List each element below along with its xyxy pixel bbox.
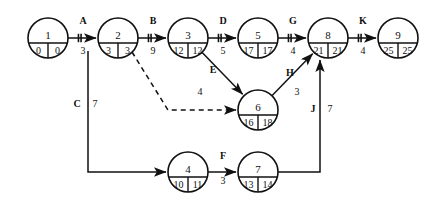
edge-label-A: A: [79, 15, 87, 26]
node-late-4: 11: [193, 179, 203, 190]
node-number-2: 2: [115, 29, 121, 41]
dummy-activity-edge: [132, 52, 236, 110]
node-early-8: 21: [314, 45, 324, 56]
node-7[interactable]: 71314: [238, 152, 278, 192]
node-late-2: 3: [125, 45, 130, 56]
node-number-5: 5: [255, 29, 261, 41]
node-early-9: 25: [384, 45, 394, 56]
edge-duration-C: 7: [93, 98, 98, 109]
edge-label-D: D: [219, 15, 226, 26]
edge-E: [202, 52, 243, 94]
edge-duration-F: 3: [221, 175, 226, 186]
edge-label-G: G: [289, 15, 297, 26]
node-early-6: 16: [244, 117, 254, 128]
edge-J: [278, 60, 320, 172]
network-diagram-canvas: 1002333121251717821219252561618410117131…: [0, 0, 442, 211]
edge-label-F: F: [220, 150, 226, 161]
node-early-5: 17: [244, 45, 254, 56]
edge-C: [88, 51, 166, 172]
node-number-3: 3: [185, 29, 191, 41]
node-late-6: 18: [263, 117, 273, 128]
edge-label-E: E: [210, 64, 217, 75]
node-9[interactable]: 92525: [378, 18, 418, 58]
node-early-3: 12: [174, 45, 184, 56]
node-late-1: 0: [55, 45, 60, 56]
node-number-9: 9: [395, 29, 401, 41]
network-diagram-svg: 1002333121251717821219252561618410117131…: [0, 0, 442, 211]
node-8[interactable]: 82121: [308, 18, 348, 58]
node-2[interactable]: 233: [98, 18, 138, 58]
edge-label-K: K: [359, 15, 367, 26]
edge-label-J: J: [311, 103, 316, 114]
node-late-5: 17: [263, 45, 273, 56]
node-late-9: 25: [403, 45, 413, 56]
node-4[interactable]: 41011: [168, 152, 208, 192]
node-number-4: 4: [185, 163, 191, 175]
node-5[interactable]: 51717: [238, 18, 278, 58]
node-early-1: 0: [36, 45, 41, 56]
node-number-8: 8: [325, 29, 331, 41]
node-early-2: 3: [106, 45, 111, 56]
node-late-7: 14: [263, 179, 273, 190]
edge-duration-A: 3: [81, 45, 86, 56]
edge-duration-H: 3: [295, 86, 300, 97]
edge-label-C: C: [73, 98, 80, 109]
node-late-8: 21: [333, 45, 343, 56]
edge-duration-G: 4: [291, 45, 296, 56]
node-6[interactable]: 61618: [238, 90, 278, 130]
edge-duration-E: 4: [198, 86, 203, 97]
edge-duration-B: 9: [151, 45, 156, 56]
node-1[interactable]: 100: [28, 18, 68, 58]
edge-label-B: B: [150, 15, 157, 26]
node-number-1: 1: [45, 29, 51, 41]
edge-duration-K: 4: [361, 45, 366, 56]
edge-duration-D: 5: [221, 45, 226, 56]
node-early-4: 10: [174, 179, 184, 190]
node-number-6: 6: [255, 101, 261, 113]
node-early-7: 13: [244, 179, 254, 190]
node-3[interactable]: 31212: [168, 18, 208, 58]
edge-label-H: H: [286, 67, 294, 78]
edge-duration-J: 7: [328, 103, 333, 114]
node-number-7: 7: [255, 163, 261, 175]
node-late-3: 12: [193, 45, 203, 56]
